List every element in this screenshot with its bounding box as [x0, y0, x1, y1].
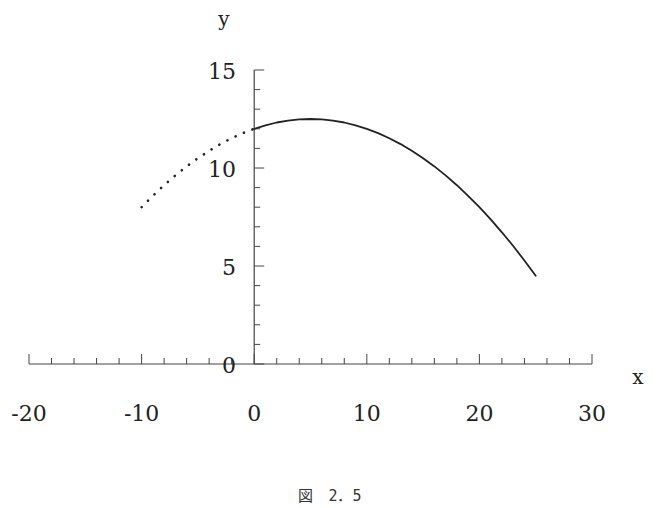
y-tick-label: 5 — [222, 255, 236, 280]
tick-labels: -20-100102030051015 — [11, 59, 606, 426]
y-tick-label: 0 — [222, 353, 236, 378]
x-axis-label: x — [632, 365, 644, 389]
x-tick-label: -10 — [124, 401, 159, 426]
y-axis-label: y — [217, 7, 230, 31]
series — [142, 119, 536, 276]
figure-caption: 図 2．5 — [298, 487, 361, 505]
y-tick-label: 15 — [208, 59, 236, 84]
x-tick-label: -20 — [11, 401, 46, 426]
axes — [29, 70, 592, 364]
x-tick-label: 30 — [578, 401, 606, 426]
x-tick-label: 0 — [247, 401, 261, 426]
ticks — [29, 70, 592, 364]
chart: -20-100102030051015 y x 図 2．5 — [0, 0, 660, 508]
solid-curve-line — [254, 119, 536, 276]
x-tick-label: 20 — [465, 401, 493, 426]
x-tick-label: 10 — [353, 401, 381, 426]
y-tick-label: 10 — [208, 157, 236, 182]
dotted-extension-line — [142, 129, 255, 207]
